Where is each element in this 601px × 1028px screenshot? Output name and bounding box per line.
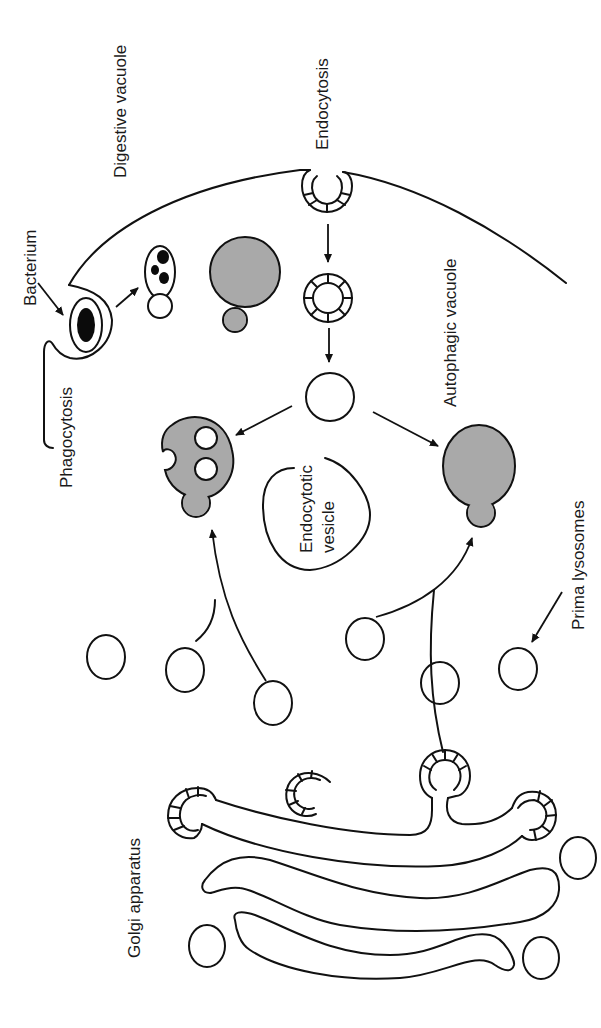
endocytic-vesicle — [306, 373, 354, 421]
coated-pit — [302, 170, 352, 212]
label-endocytotic-vesicle-2: vesicle — [319, 501, 338, 553]
endocytotic-vesicle-outline — [263, 458, 370, 570]
bacterium-phagosome — [70, 298, 102, 352]
secondary-lysosome — [210, 237, 280, 332]
coated-vesicle — [304, 274, 352, 322]
lysosome-diagram: Digestive vacuole Endocytosis Bacterium … — [0, 0, 601, 1028]
label-autophagic-vacuole: Autophagic vacuole — [441, 259, 460, 407]
digestive-vacuole-fragments — [145, 246, 175, 318]
lysosome-branch-left — [196, 600, 215, 641]
label-prima-lysosomes: Prima lysosomes — [569, 501, 588, 630]
autophagic-vacuole — [443, 425, 515, 527]
label-bacterium: Bacterium — [21, 229, 40, 306]
prima-lysosomes-arrow — [532, 592, 562, 642]
lysosome-to-residual-arrow — [212, 530, 266, 681]
label-endocytotic-vesicle-1: Endocytotic — [297, 465, 316, 553]
lysosome-to-autophagic-arrow — [376, 538, 472, 617]
label-phagocytosis: Phagocytosis — [57, 387, 76, 488]
label-digestive-vacuole: Digestive vacuole — [111, 45, 130, 178]
label-golgi-apparatus: Golgi apparatus — [125, 838, 144, 958]
vesicle-to-autophagic-arrow — [373, 412, 438, 446]
golgi-apparatus — [168, 750, 559, 979]
residual-body — [162, 417, 233, 517]
label-endocytosis: Endocytosis — [313, 58, 332, 150]
phagosome-to-vacuole-arrow — [116, 288, 138, 307]
vesicle-to-residual-arrow — [236, 406, 292, 435]
bacterium-arrow — [38, 283, 63, 315]
